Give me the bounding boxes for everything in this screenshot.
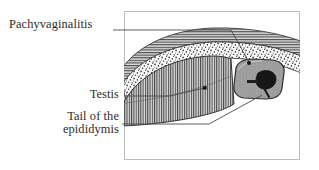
epididymal-duct-coil [256, 71, 276, 90]
label-testis: Testis [0, 88, 119, 101]
label-pachyvaginalitis: Pachyvaginalitis [9, 18, 93, 31]
label-epididymis-line2: epididymis [0, 123, 119, 136]
pachyvaginalitis-target-dot [247, 61, 251, 65]
testis-target-dot [203, 86, 207, 89]
label-tail-of-the-epididymis: Tail of theepididymis [0, 110, 119, 137]
epididymal-duct-limb [247, 80, 259, 83]
label-epididymis-line1: Tail of the [67, 109, 119, 123]
figure-container: Pachyvaginalitis Testis Tail of theepidi… [0, 0, 319, 170]
